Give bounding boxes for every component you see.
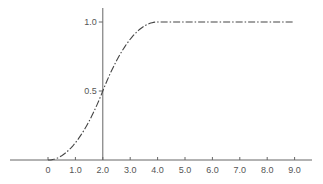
x-tick-label: 4.0 [151,165,164,175]
x-tick-label: 5.0 [179,165,192,175]
x-tick-label: 8.0 [261,165,274,175]
x-tick-label: 7.0 [234,165,247,175]
x-tick-label: 1.0 [69,165,82,175]
x-tick-label: 0 [45,165,50,175]
x-tick-label: 2.0 [97,165,110,175]
x-tick-label: 6.0 [206,165,219,175]
x-tick-label: 3.0 [124,165,137,175]
x-tick-label: 9.0 [288,165,301,175]
y-tick-label: 0.5 [84,86,97,96]
chart: 01.02.03.04.05.06.07.08.09.0 0.51.0 [0,0,323,184]
y-tick-label: 1.0 [84,17,97,27]
y-tick-labels: 0.51.0 [84,17,103,96]
